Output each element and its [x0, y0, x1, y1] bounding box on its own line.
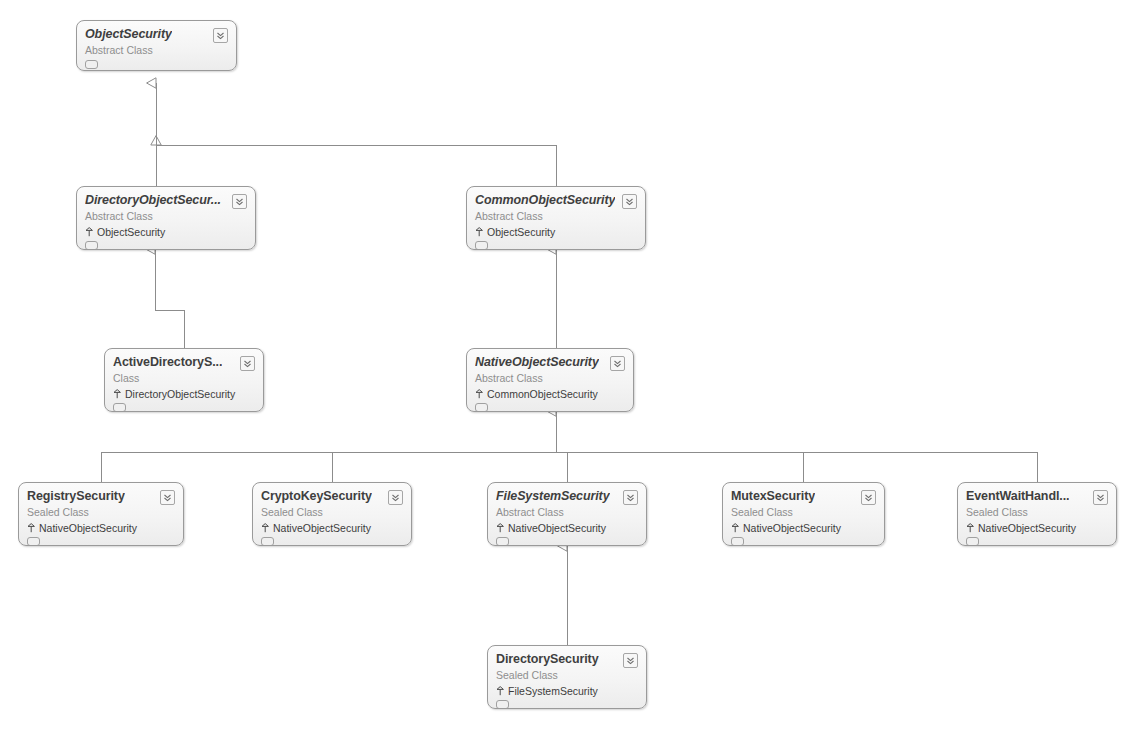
- base-class-row-native-object-security[interactable]: CommonObjectSecurity: [475, 388, 625, 400]
- class-stereotype-label-crypto-key-security: Sealed Class: [261, 506, 403, 519]
- base-class-label-registry-security: NativeObjectSecurity: [39, 522, 137, 534]
- class-stereotype-label-active-directory-security: Class: [113, 372, 255, 385]
- class-shape-mutex-security[interactable]: MutexSecurity Sealed Class NativeObjectS…: [722, 482, 885, 546]
- class-name-label-native-object-security: NativeObjectSecurity: [475, 355, 599, 370]
- class-stereotype-label-mutex-security: Sealed Class: [731, 506, 876, 519]
- collapsed-compartment-icon[interactable]: [966, 537, 979, 546]
- chevron-double-down-icon[interactable]: [213, 28, 228, 43]
- base-class-label-directory-security: FileSystemSecurity: [508, 685, 598, 697]
- class-stereotype-label-event-wait-handle-security: Sealed Class: [966, 506, 1108, 519]
- collapsed-compartment-icon[interactable]: [475, 403, 488, 412]
- base-class-label-mutex-security: NativeObjectSecurity: [743, 522, 841, 534]
- base-class-label-common-object-security: ObjectSecurity: [487, 226, 555, 238]
- class-name-label-directory-object-security: DirectoryObjectSecur...: [85, 193, 221, 208]
- class-name-label-object-security: ObjectSecurity: [85, 27, 172, 42]
- class-shape-object-security[interactable]: ObjectSecurity Abstract Class: [76, 20, 237, 71]
- collapsed-compartment-icon[interactable]: [85, 241, 98, 250]
- inheritance-arrow-icon: [85, 227, 94, 237]
- chevron-double-down-icon[interactable]: [388, 490, 403, 505]
- inheritance-arrow-icon: [475, 389, 484, 399]
- class-shape-native-object-security[interactable]: NativeObjectSecurity Abstract Class Comm…: [466, 348, 634, 412]
- class-diagram-canvas[interactable]: ObjectSecurity Abstract Class DirectoryO…: [0, 0, 1133, 735]
- base-class-label-active-directory-security: DirectoryObjectSecurity: [125, 388, 235, 400]
- class-shape-active-directory-security[interactable]: ActiveDirectoryS... Class DirectoryObjec…: [104, 348, 264, 412]
- class-stereotype-label-directory-security: Sealed Class: [496, 669, 638, 682]
- collapsed-compartment-icon[interactable]: [85, 60, 98, 69]
- class-stereotype-label-directory-object-security: Abstract Class: [85, 210, 247, 223]
- collapsed-compartment-icon[interactable]: [475, 241, 488, 250]
- class-shape-common-object-security[interactable]: CommonObjectSecurity Abstract Class Obje…: [466, 186, 646, 250]
- inheritance-arrow-icon: [27, 523, 36, 533]
- base-class-row-directory-security[interactable]: FileSystemSecurity: [496, 685, 638, 697]
- class-shape-header: MutexSecurity: [731, 489, 876, 505]
- inheritance-arrow-icon: [496, 686, 505, 696]
- class-name-label-file-system-security: FileSystemSecurity: [496, 489, 610, 504]
- class-name-label-directory-security: DirectorySecurity: [496, 652, 599, 667]
- class-shape-directory-security[interactable]: DirectorySecurity Sealed Class FileSyste…: [487, 645, 647, 709]
- base-class-label-crypto-key-security: NativeObjectSecurity: [273, 522, 371, 534]
- class-name-label-event-wait-handle-security: EventWaitHandl...: [966, 489, 1069, 504]
- class-shape-header: ObjectSecurity: [85, 27, 228, 43]
- base-class-row-file-system-security[interactable]: NativeObjectSecurity: [496, 522, 638, 534]
- inheritance-arrow-icon: [261, 523, 270, 533]
- chevron-double-down-icon[interactable]: [240, 356, 255, 371]
- class-shape-header: DirectorySecurity: [496, 652, 638, 668]
- inheritance-arrow-icon: [731, 523, 740, 533]
- class-shape-crypto-key-security[interactable]: CryptoKeySecurity Sealed Class NativeObj…: [252, 482, 412, 546]
- class-shape-header: CryptoKeySecurity: [261, 489, 403, 505]
- base-class-row-crypto-key-security[interactable]: NativeObjectSecurity: [261, 522, 403, 534]
- base-class-row-active-directory-security[interactable]: DirectoryObjectSecurity: [113, 388, 255, 400]
- chevron-double-down-icon[interactable]: [1093, 490, 1108, 505]
- class-shape-header: CommonObjectSecurity: [475, 193, 637, 209]
- base-class-row-mutex-security[interactable]: NativeObjectSecurity: [731, 522, 876, 534]
- class-shape-event-wait-handle-security[interactable]: EventWaitHandl... Sealed Class NativeObj…: [957, 482, 1117, 546]
- class-name-label-crypto-key-security: CryptoKeySecurity: [261, 489, 372, 504]
- chevron-double-down-icon[interactable]: [861, 490, 876, 505]
- class-shape-header: DirectoryObjectSecur...: [85, 193, 247, 209]
- base-class-label-event-wait-handle-security: NativeObjectSecurity: [978, 522, 1076, 534]
- class-name-label-common-object-security: CommonObjectSecurity: [475, 193, 615, 208]
- class-shape-header: FileSystemSecurity: [496, 489, 638, 505]
- connector-common-object-security-to-object-security: [156, 145, 556, 186]
- base-class-label-file-system-security: NativeObjectSecurity: [508, 522, 606, 534]
- class-shape-header: EventWaitHandl...: [966, 489, 1108, 505]
- chevron-double-down-icon[interactable]: [623, 653, 638, 668]
- inheritance-arrow-icon: [475, 227, 484, 237]
- inheritance-arrow-icon: [496, 523, 505, 533]
- chevron-double-down-icon[interactable]: [623, 490, 638, 505]
- collapsed-compartment-icon[interactable]: [113, 403, 126, 412]
- connector-active-directory-security-to-directory-object-security: [155, 249, 184, 348]
- base-class-row-event-wait-handle-security[interactable]: NativeObjectSecurity: [966, 522, 1108, 534]
- class-name-label-active-directory-security: ActiveDirectoryS...: [113, 355, 222, 370]
- class-stereotype-label-common-object-security: Abstract Class: [475, 210, 637, 223]
- chevron-double-down-icon[interactable]: [622, 194, 637, 209]
- base-class-label-native-object-security: CommonObjectSecurity: [487, 388, 598, 400]
- class-shape-header: NativeObjectSecurity: [475, 355, 625, 371]
- base-class-row-directory-object-security[interactable]: ObjectSecurity: [85, 226, 247, 238]
- inheritance-arrow-icon: [966, 523, 975, 533]
- class-stereotype-label-object-security: Abstract Class: [85, 44, 228, 57]
- class-stereotype-label-native-object-security: Abstract Class: [475, 372, 625, 385]
- base-class-row-common-object-security[interactable]: ObjectSecurity: [475, 226, 637, 238]
- base-class-row-registry-security[interactable]: NativeObjectSecurity: [27, 522, 175, 534]
- class-shape-registry-security[interactable]: RegistrySecurity Sealed Class NativeObje…: [18, 482, 184, 546]
- base-class-label-directory-object-security: ObjectSecurity: [97, 226, 165, 238]
- inheritance-arrow-icon: [113, 389, 122, 399]
- class-name-label-registry-security: RegistrySecurity: [27, 489, 125, 504]
- collapsed-compartment-icon[interactable]: [261, 537, 274, 546]
- class-shape-directory-object-security[interactable]: DirectoryObjectSecur... Abstract Class O…: [76, 186, 256, 250]
- class-shape-file-system-security[interactable]: FileSystemSecurity Abstract Class Native…: [487, 482, 647, 546]
- collapsed-compartment-icon[interactable]: [731, 537, 744, 546]
- chevron-double-down-icon[interactable]: [232, 194, 247, 209]
- class-name-label-mutex-security: MutexSecurity: [731, 489, 815, 504]
- class-shape-header: ActiveDirectoryS...: [113, 355, 255, 371]
- class-stereotype-label-file-system-security: Abstract Class: [496, 506, 638, 519]
- collapsed-compartment-icon[interactable]: [27, 537, 40, 546]
- class-shape-header: RegistrySecurity: [27, 489, 175, 505]
- collapsed-compartment-icon[interactable]: [496, 700, 509, 709]
- chevron-double-down-icon[interactable]: [610, 356, 625, 371]
- collapsed-compartment-icon[interactable]: [496, 537, 509, 546]
- chevron-double-down-icon[interactable]: [160, 490, 175, 505]
- class-stereotype-label-registry-security: Sealed Class: [27, 506, 175, 519]
